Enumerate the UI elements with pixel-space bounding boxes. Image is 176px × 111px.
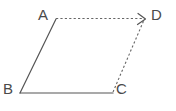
vertex-label-a: A [38,7,48,22]
vertex-label-c: C [116,81,127,96]
edge-AB-line [20,19,56,93]
parallelogram-figure [0,0,176,111]
vertex-label-d: D [151,7,162,22]
vertex-label-b: B [3,81,13,96]
diagram-canvas: A B C D [0,0,176,111]
